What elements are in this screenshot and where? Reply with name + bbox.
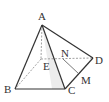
label-E: E bbox=[43, 61, 50, 72]
edge-AB bbox=[15, 25, 42, 89]
label-B: B bbox=[4, 84, 11, 95]
pyramid-diagram: A E B C D N M bbox=[0, 0, 109, 102]
diagram-lines bbox=[0, 0, 109, 102]
label-C: C bbox=[68, 85, 75, 96]
label-D: D bbox=[95, 55, 103, 66]
label-M: M bbox=[81, 75, 91, 86]
label-A: A bbox=[38, 11, 46, 22]
label-N: N bbox=[61, 48, 69, 59]
segment-NM bbox=[63, 59, 79, 74]
edge-EB bbox=[15, 59, 41, 89]
edge-AE bbox=[41, 25, 42, 59]
